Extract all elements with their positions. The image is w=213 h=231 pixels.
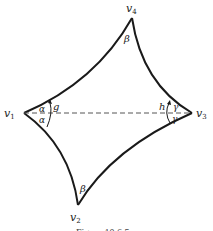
angle-label-v3-upper: γ <box>173 102 179 112</box>
edge-v4-v3 <box>132 18 192 113</box>
edge-v3-v2 <box>78 113 192 205</box>
arrowhead-h-icon <box>167 100 171 105</box>
figure-caption: Figure 10.6.5 <box>76 227 130 231</box>
rotation-label-h: h <box>159 101 165 112</box>
vertex-label-v2: v2 <box>70 211 81 225</box>
rotation-arc-g <box>47 103 51 127</box>
quadrilateral-diagram: v1 v2 v3 v4 α α β β γ γ g h Figure 10.6.… <box>0 0 213 231</box>
vertex-label-v4: v4 <box>126 2 137 16</box>
edge-v2-v1 <box>24 113 78 205</box>
angle-label-v1-upper: α <box>39 104 45 114</box>
angle-label-v4: β <box>123 33 130 44</box>
rotation-label-g: g <box>53 101 59 112</box>
edge-v1-v4 <box>24 18 132 113</box>
angle-label-v1-lower: α <box>39 115 45 125</box>
angle-label-v3-lower: γ <box>172 114 178 124</box>
angle-label-v2: β <box>79 183 86 194</box>
vertex-label-v3: v3 <box>196 107 207 121</box>
vertex-label-v1: v1 <box>4 107 15 121</box>
